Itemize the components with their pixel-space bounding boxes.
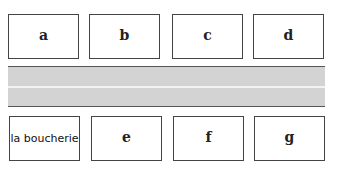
building-box-boucherie: la boucherie [9,116,80,161]
building-box-f: f [173,116,244,161]
building-label: f [205,129,211,145]
building-box-g: g [254,116,325,161]
building-box-e: e [91,116,162,161]
building-label: la boucherie [10,132,78,145]
building-label: e [122,129,131,145]
building-box-c: c [172,14,243,59]
street-center-line [8,86,325,88]
building-box-d: d [253,14,324,59]
building-label: b [120,27,130,43]
building-label: c [203,27,212,43]
street [8,66,325,107]
building-box-b: b [89,14,160,59]
building-box-a: a [8,14,79,59]
building-label: d [284,27,294,43]
building-label: a [39,27,48,43]
building-label: g [285,129,295,145]
